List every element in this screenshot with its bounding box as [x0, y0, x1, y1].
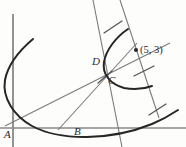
- axes-group: [0, 14, 186, 147]
- point-label-a: A: [4, 129, 11, 140]
- figure-canvas: [0, 0, 186, 147]
- tick-mark-upper: [104, 21, 122, 33]
- geometry-figure: A B C D (5, 3): [0, 0, 186, 147]
- point-label-c: C: [108, 75, 115, 86]
- point-label-b: B: [74, 126, 81, 137]
- coordinate-point-label: (5, 3): [140, 45, 163, 56]
- point-label-d: D: [92, 56, 100, 67]
- tick-mark-mid-right: [134, 66, 154, 76]
- line-steep-right: [120, 0, 159, 118]
- coordinate-point-marker: [134, 48, 138, 52]
